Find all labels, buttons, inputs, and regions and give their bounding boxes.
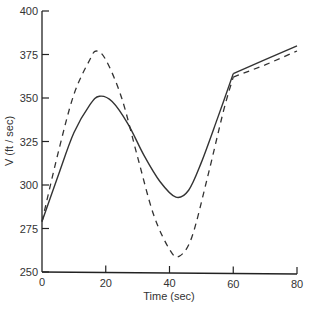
x-tick-label: 60 — [227, 278, 239, 290]
x-tick-label: 0 — [39, 276, 45, 288]
y-tick-label: 350 — [20, 92, 38, 104]
dashed-series-line — [233, 51, 297, 77]
x-tick-label: 40 — [163, 277, 175, 289]
y-tick-label: 250 — [20, 266, 38, 278]
x-axis-label: Time (sec) — [143, 290, 195, 302]
solid-series-line — [42, 74, 233, 222]
y-tick-label: 325 — [20, 136, 38, 148]
line-chart: 250275300325350375400 020406080 Time (se… — [0, 0, 310, 311]
x-axis-ticks: 020406080 — [39, 266, 303, 291]
y-axis-label: V (ft / sec) — [3, 116, 15, 166]
y-tick-label: 375 — [20, 49, 38, 61]
x-tick-label: 80 — [291, 278, 303, 290]
y-tick-label: 300 — [20, 179, 38, 191]
axes — [42, 11, 297, 274]
y-tick-label: 400 — [20, 5, 38, 17]
y-axis-ticks: 250275300325350375400 — [20, 5, 49, 278]
series-lines — [42, 46, 297, 257]
x-tick-label: 20 — [100, 277, 112, 289]
solid-series-line — [233, 46, 297, 74]
y-tick-label: 275 — [20, 223, 38, 235]
